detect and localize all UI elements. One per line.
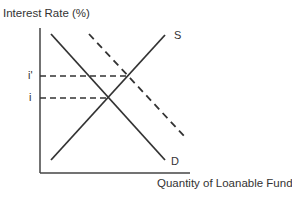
- demand-label: D: [171, 156, 179, 167]
- shifted-demand-curve: [89, 34, 185, 137]
- i-label: i: [29, 92, 31, 103]
- loanable-funds-chart: [0, 0, 292, 199]
- supply-label: S: [174, 30, 181, 41]
- y-axis-label: Interest Rate (%): [3, 8, 90, 20]
- i-prime-label: i': [28, 70, 33, 81]
- x-axis-label: Quantity of Loanable Funds: [157, 178, 292, 190]
